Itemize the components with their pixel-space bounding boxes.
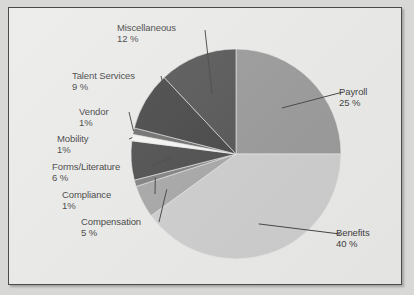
label-mobility: Mobility 1% <box>57 133 88 155</box>
label-payroll-pct: 25 % <box>339 97 367 108</box>
chart-frame: Miscellaneous 12 % Talent Services 9 % V… <box>8 7 402 285</box>
label-vendor-title: Vendor <box>79 106 109 117</box>
label-forms-literature-title: Forms/Literature <box>52 161 120 172</box>
label-mobility-title: Mobility <box>57 133 88 144</box>
label-talent-services-pct: 9 % <box>72 81 135 92</box>
pie-slice-payroll <box>236 49 341 154</box>
label-talent-services: Talent Services 9 % <box>72 70 135 92</box>
label-miscellaneous-title: Miscellaneous <box>117 22 176 33</box>
label-vendor-pct: 1% <box>79 117 109 128</box>
label-payroll-title: Payroll <box>339 86 367 97</box>
label-compliance-title: Compliance <box>62 189 111 200</box>
label-forms-literature-pct: 6 % <box>52 172 120 183</box>
label-talent-services-title: Talent Services <box>72 70 135 81</box>
label-benefits: Benefits 40 % <box>336 227 370 249</box>
label-compensation-title: Compensation <box>81 216 141 227</box>
label-compensation-pct: 5 % <box>81 227 141 238</box>
label-compliance: Compliance 1% <box>62 189 111 211</box>
label-benefits-pct: 40 % <box>336 238 370 249</box>
label-vendor: Vendor 1% <box>79 106 109 128</box>
label-payroll: Payroll 25 % <box>339 86 367 108</box>
leader-line-vendor <box>129 112 134 131</box>
leader-line-mobility <box>129 138 132 139</box>
label-miscellaneous: Miscellaneous 12 % <box>117 22 176 44</box>
label-compliance-pct: 1% <box>62 200 111 211</box>
label-benefits-title: Benefits <box>336 227 370 238</box>
label-forms-literature: Forms/Literature 6 % <box>52 161 120 183</box>
label-mobility-pct: 1% <box>57 144 88 155</box>
label-compensation: Compensation 5 % <box>81 216 141 238</box>
label-miscellaneous-pct: 12 % <box>117 33 176 44</box>
